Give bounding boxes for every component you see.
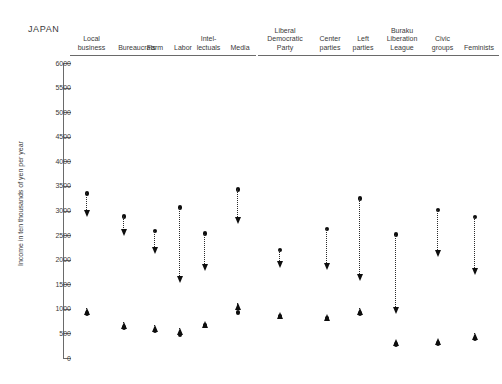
data-arrow-down-stem [359, 198, 360, 276]
data-arrow-up-head [393, 339, 399, 346]
data-arrow-down-head [324, 263, 330, 270]
data-arrow-down-head [357, 274, 363, 281]
data-arrow-down-head [393, 307, 399, 314]
data-arrow-down-head [202, 264, 208, 271]
data-arrow-down-stem [237, 189, 238, 219]
data-arrow-down-head [235, 217, 241, 224]
data-arrow-up-head [202, 321, 208, 328]
data-arrow-up-head [435, 338, 441, 345]
data-arrow-up-head [235, 303, 241, 310]
data-arrow-down-head [177, 276, 183, 283]
data-arrow-down-head [84, 210, 90, 217]
data-arrow-down-stem [474, 217, 475, 270]
plot-area [0, 0, 502, 384]
data-arrow-down-head [121, 229, 127, 236]
data-arrow-down-head [472, 268, 478, 275]
data-arrow-up-head [472, 333, 478, 340]
data-point-lower-dot [236, 310, 241, 315]
data-arrow-up-head [121, 322, 127, 329]
data-arrow-down-stem [179, 208, 180, 279]
data-arrow-down-stem [437, 210, 438, 252]
data-arrow-up-head [277, 312, 283, 319]
data-arrow-down-head [435, 250, 441, 257]
data-arrow-down-head [152, 247, 158, 254]
data-arrow-up-head [357, 308, 363, 315]
data-arrow-up-head [84, 308, 90, 315]
data-arrow-up-head [152, 325, 158, 332]
data-arrow-down-stem [395, 235, 396, 309]
data-arrow-down-head [277, 261, 283, 268]
data-arrow-up-head [177, 328, 183, 335]
data-arrow-down-stem [326, 229, 327, 265]
chart-root: JAPAN LocalbusinessBureaucratsFarmLaborI… [0, 0, 502, 384]
data-arrow-down-stem [204, 234, 205, 267]
data-arrow-up-head [324, 314, 330, 321]
